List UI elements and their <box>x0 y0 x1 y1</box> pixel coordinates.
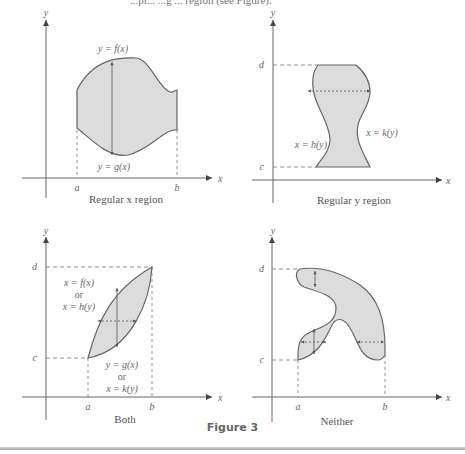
tick-label-b: b <box>150 401 155 412</box>
tick-label-c: c <box>33 352 38 363</box>
x-axis-label: x <box>445 392 451 403</box>
shaded-region <box>313 65 370 167</box>
shaded-region <box>77 58 177 155</box>
bottom-divider <box>0 447 465 450</box>
figure-diagram: y x a b y = f(x) y = g(x) y x d c x = h(… <box>0 0 465 454</box>
tick-label-c: c <box>260 161 265 172</box>
curve-label-upper-2: x = h(y) <box>62 301 96 313</box>
y-axis-label: y <box>270 225 276 236</box>
x-axis-label: x <box>217 173 223 184</box>
curve-label-top: y = f(x) <box>97 43 129 55</box>
tick-label-a: a <box>75 182 80 193</box>
curve-label-upper-1: x = f(x) <box>63 277 95 289</box>
curve-label-upper-or: or <box>75 289 84 300</box>
shaded-region <box>297 268 385 360</box>
x-axis-label: x <box>445 175 451 186</box>
panel-neither: y x a b d c <box>252 225 451 422</box>
curve-label-lower-or: or <box>118 371 127 382</box>
y-axis-label: y <box>43 7 49 18</box>
tick-label-a: a <box>296 401 301 412</box>
panel-regular-y-region: y x d c x = h(y) x = k(y) <box>252 7 451 203</box>
tick-label-d: d <box>32 261 38 272</box>
figure-label: Figure 3 <box>0 421 465 434</box>
tick-label-c: c <box>260 354 265 365</box>
curve-label-bottom: y = g(x) <box>97 161 131 173</box>
tick-label-b: b <box>175 182 180 193</box>
caption-regular-x-region: Regular x region <box>26 193 226 205</box>
tick-label-d: d <box>259 59 265 70</box>
tick-label-d: d <box>259 263 265 274</box>
tick-label-a: a <box>86 401 91 412</box>
curve-label-lower-2: x = k(y) <box>105 383 138 395</box>
curve-label-lower-1: y = g(x) <box>105 359 139 371</box>
shaded-region <box>88 267 152 358</box>
panel-both: y x a b d c x = f(x) or x = h(y) y = g(x… <box>22 225 223 420</box>
y-axis-label: y <box>43 225 49 236</box>
curve-label-left: x = h(y) <box>294 139 328 151</box>
tick-label-b: b <box>383 401 388 412</box>
caption-regular-y-region: Regular y region <box>254 194 454 206</box>
panel-regular-x-region: y x a b y = f(x) y = g(x) <box>22 7 223 198</box>
curve-label-right: x = k(y) <box>365 127 398 139</box>
y-axis-label: y <box>270 7 276 18</box>
x-axis-label: x <box>217 392 223 403</box>
